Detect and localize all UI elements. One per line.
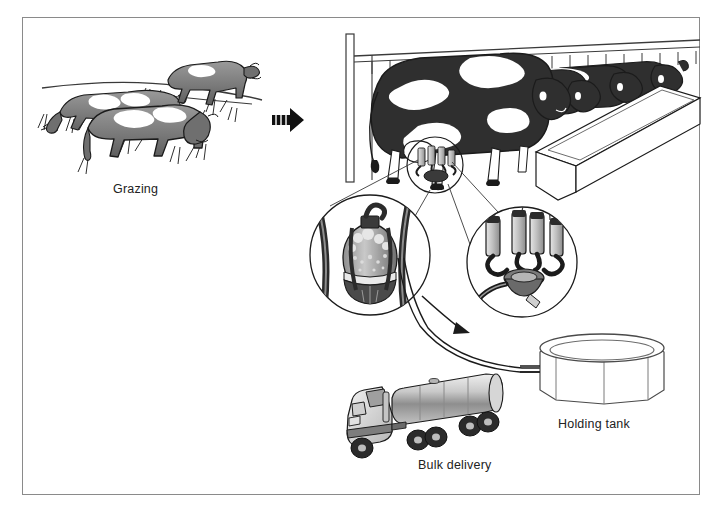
caption-holding-tank: Holding tank bbox=[558, 417, 630, 431]
caption-bulk-delivery: Bulk delivery bbox=[418, 458, 491, 472]
railing-top bbox=[354, 40, 700, 56]
barn-post bbox=[346, 34, 354, 182]
grazing-scene bbox=[38, 61, 262, 174]
detail-teat-cups bbox=[467, 196, 577, 317]
caption-grazing: Grazing bbox=[113, 182, 158, 196]
detail-milk-receiver bbox=[310, 195, 430, 315]
bulk-delivery-truck bbox=[347, 374, 503, 458]
holding-tank bbox=[520, 334, 664, 404]
diagram-canvas bbox=[0, 0, 721, 516]
stage-arrow-right bbox=[272, 108, 304, 132]
cow-grazing-2 bbox=[168, 61, 261, 105]
figure-root: Grazing Bulk delivery Holding tank bbox=[0, 0, 721, 516]
